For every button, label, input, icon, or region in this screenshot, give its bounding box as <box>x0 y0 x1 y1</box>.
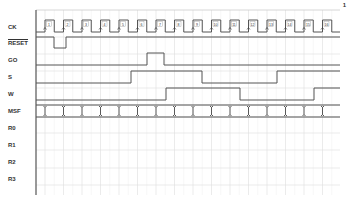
waveform-reset <box>36 37 340 48</box>
cycle-number: 14 <box>288 23 292 27</box>
bus-transition <box>229 106 232 116</box>
clock-waveform <box>36 20 340 32</box>
cycle-number: 7 <box>159 23 161 27</box>
waveform-go <box>36 53 340 65</box>
bus-transition <box>284 106 287 116</box>
bus-transition <box>99 106 102 116</box>
bus-transition <box>81 106 84 116</box>
bus-transition <box>155 106 158 116</box>
waveform-s <box>36 71 340 83</box>
cycle-number: 11 <box>232 23 236 27</box>
bus-transition <box>44 106 47 116</box>
waveform-w <box>36 88 340 100</box>
bus-transition <box>62 106 65 116</box>
cycle-number: 5 <box>122 23 124 27</box>
cycle-number: 15 <box>306 23 310 27</box>
bus-transition <box>192 106 195 116</box>
bus-transition <box>247 106 250 116</box>
bus-transition <box>266 106 269 116</box>
cycle-number: 13 <box>269 23 273 27</box>
cycle-number: 6 <box>141 23 143 27</box>
cycle-number: 2 <box>67 23 69 27</box>
bus-transition <box>118 106 121 116</box>
bus-transition <box>136 106 139 116</box>
timing-diagram: 12345678910111213141516 <box>0 0 349 202</box>
cycle-number: 9 <box>196 23 198 27</box>
cycle-number: 12 <box>251 23 255 27</box>
bus-transition <box>321 106 324 116</box>
bus-transition <box>210 106 213 116</box>
cycle-number: 1 <box>48 23 50 27</box>
bus-transition <box>173 106 176 116</box>
cycle-number: 3 <box>85 23 87 27</box>
cycle-number: 10 <box>214 23 218 27</box>
cycle-number: 8 <box>178 23 180 27</box>
cycle-number: 4 <box>104 23 106 27</box>
cycle-number: 16 <box>325 23 329 27</box>
bus-transition <box>303 106 306 116</box>
